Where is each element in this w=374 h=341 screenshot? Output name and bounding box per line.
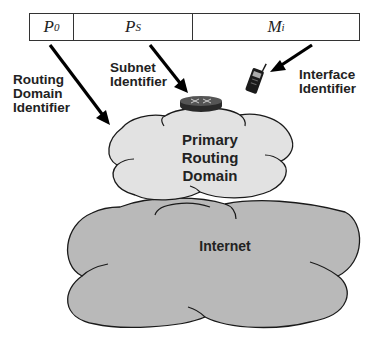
field-symbol: M (267, 17, 281, 37)
routing-domain-field: P0 (30, 14, 74, 40)
field-subscript: i (282, 21, 285, 33)
router-icon (180, 96, 222, 112)
routing-domain-identifier-label: Routing Domain Identifier (13, 73, 70, 115)
internet-cloud (68, 198, 360, 328)
field-symbol: P (44, 17, 54, 37)
mobile-phone-icon (245, 60, 267, 94)
field-subscript: 0 (54, 21, 60, 33)
subnet-identifier-label: Subnet Identifier (110, 61, 167, 89)
interface-field: Mi (193, 14, 359, 40)
address-format-bar: P0 PS Mi (29, 13, 360, 41)
subnet-field: PS (74, 14, 193, 40)
interface-identifier-label: Interface Identifier (299, 68, 356, 96)
primary-routing-domain-label: Primary Routing Domain (158, 131, 262, 185)
field-symbol: P (125, 17, 135, 37)
field-subscript: S (135, 21, 141, 33)
internet-label: Internet (180, 238, 270, 254)
